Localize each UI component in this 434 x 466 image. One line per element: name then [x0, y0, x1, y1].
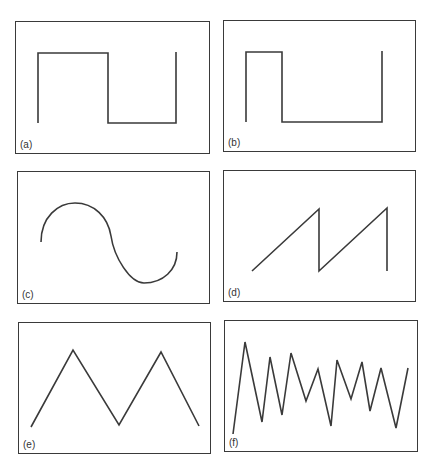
panel-b-pulse-wave: (b) — [223, 20, 416, 152]
panel-label-e: (e) — [23, 440, 35, 450]
panel-e-triangle-wave: (e) — [18, 322, 211, 454]
panel-label-f: (f) — [229, 438, 238, 448]
square-wave-line — [38, 52, 176, 123]
panel-label-a: (a) — [20, 140, 32, 150]
panel-d-sawtooth-wave: (d) — [223, 170, 416, 302]
sine-wave-line — [41, 203, 177, 283]
triangle-wave-line — [31, 350, 199, 427]
sine-wave-plot — [18, 172, 211, 305]
sawtooth-wave-line — [252, 208, 387, 271]
triangle-wave-plot — [19, 323, 212, 455]
pulse-wave-line — [246, 51, 382, 122]
pulse-wave-plot — [224, 21, 417, 153]
irregular-wave-plot — [225, 321, 419, 453]
square-wave-plot — [16, 22, 211, 155]
panel-label-c: (c) — [22, 290, 34, 300]
sawtooth-wave-plot — [224, 171, 417, 303]
panel-f-irregular-wave: (f) — [224, 320, 418, 452]
panel-label-b: (b) — [228, 138, 240, 148]
panel-c-sine-wave: (c) — [17, 171, 210, 304]
irregular-wave-line — [233, 342, 408, 434]
panel-label-d: (d) — [228, 288, 240, 298]
panel-a-square-wave: (a) — [15, 21, 210, 154]
